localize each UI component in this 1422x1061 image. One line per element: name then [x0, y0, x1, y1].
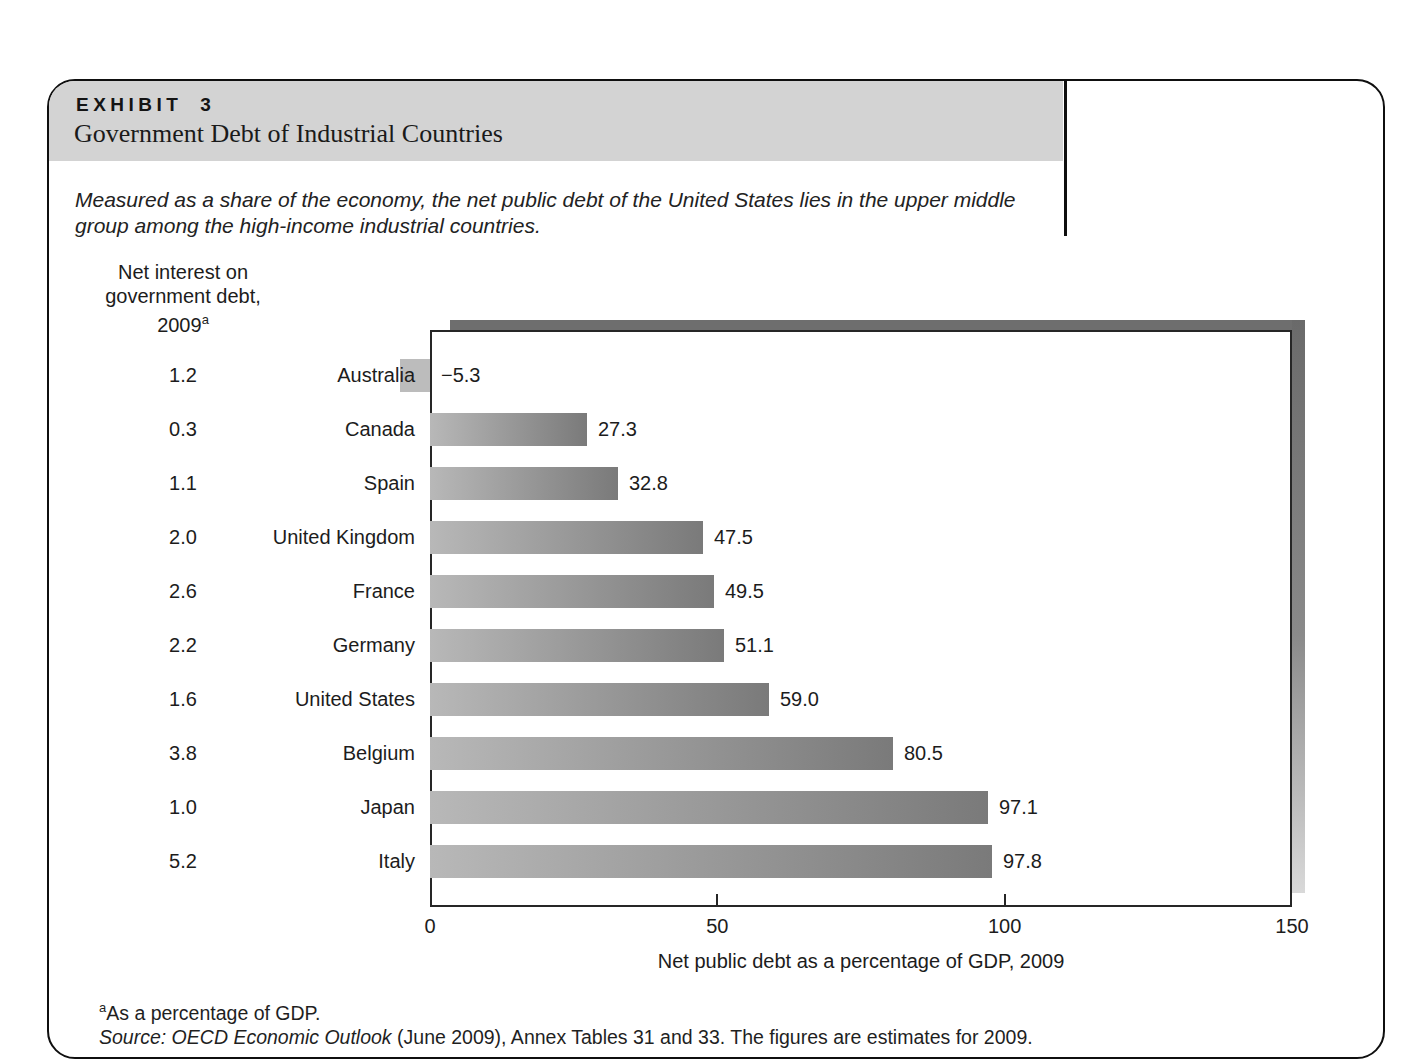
- page: EXHIBIT 3 Government Debt of Industrial …: [0, 0, 1422, 1061]
- x-axis-tick-label: 150: [1252, 913, 1332, 939]
- bar-france: [430, 575, 714, 608]
- x-axis-tick-label: 100: [965, 913, 1045, 939]
- x-axis-tick: [1004, 894, 1006, 905]
- bar-value-label: −5.3: [441, 362, 480, 388]
- bar-belgium: [430, 737, 893, 770]
- country-label: Japan: [189, 794, 415, 820]
- bar-value-label: 51.1: [735, 632, 774, 658]
- country-label: United Kingdom: [189, 524, 415, 550]
- source-line: Source: OECD Economic Outlook (June 2009…: [99, 1026, 1033, 1049]
- country-label: United States: [189, 686, 415, 712]
- source-rest: (June 2009), Annex Tables 31 and 33. The…: [392, 1026, 1033, 1048]
- country-label: Spain: [189, 470, 415, 496]
- country-label: Belgium: [189, 740, 415, 766]
- bar-value-label: 97.1: [999, 794, 1038, 820]
- x-axis-title: Net public debt as a percentage of GDP, …: [430, 950, 1292, 973]
- country-label: Italy: [189, 848, 415, 874]
- bar-united-states: [430, 683, 769, 716]
- bar-value-label: 47.5: [714, 524, 753, 550]
- x-axis-tick: [716, 894, 718, 905]
- bar-united-kingdom: [430, 521, 703, 554]
- bar-germany: [430, 629, 724, 662]
- source-title: Source: OECD Economic Outlook: [99, 1026, 392, 1048]
- bar-value-label: 80.5: [904, 740, 943, 766]
- x-axis-tick-label: 0: [390, 913, 470, 939]
- x-axis-tick-label: 50: [677, 913, 757, 939]
- bar-japan: [430, 791, 988, 824]
- footnote: aAs a percentage of GDP.: [99, 1000, 321, 1025]
- bar-value-label: 97.8: [1003, 848, 1042, 874]
- bar-value-label: 27.3: [598, 416, 637, 442]
- country-label: Australia: [189, 362, 415, 388]
- bar-value-label: 32.8: [629, 470, 668, 496]
- country-label: France: [189, 578, 415, 604]
- bar-italy: [430, 845, 992, 878]
- exhibit-box: EXHIBIT 3 Government Debt of Industrial …: [47, 79, 1385, 1059]
- country-label: Germany: [189, 632, 415, 658]
- bar-value-label: 59.0: [780, 686, 819, 712]
- country-label: Canada: [189, 416, 415, 442]
- plot-shadow-right: [1292, 320, 1305, 893]
- bar-value-label: 49.5: [725, 578, 764, 604]
- bar-canada: [430, 413, 587, 446]
- bar-spain: [430, 467, 618, 500]
- bar-chart: 1.2Australia−5.30.3Canada27.31.1Spain32.…: [49, 81, 1383, 1057]
